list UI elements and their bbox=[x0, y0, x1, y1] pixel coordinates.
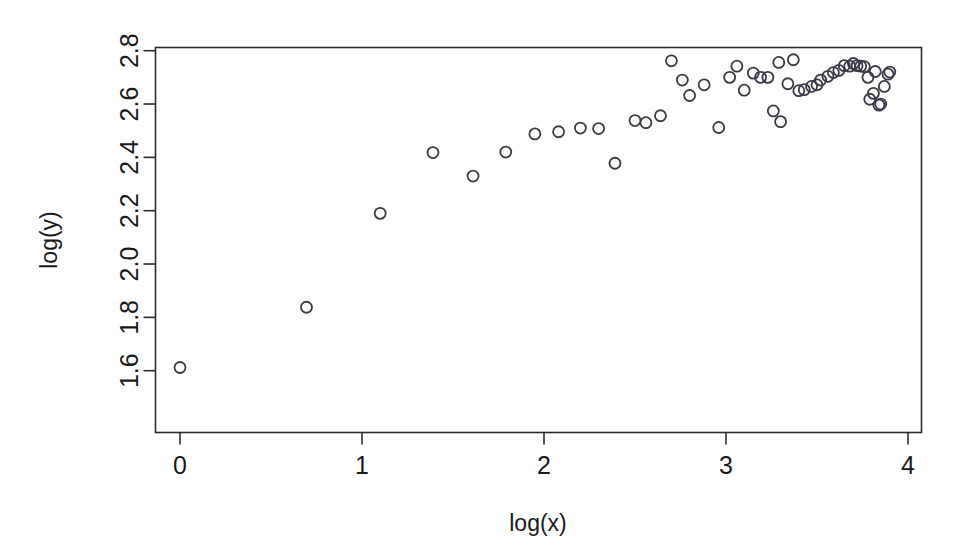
scatter-plot-figure: 01234 1.61.82.02.22.42.62.8 log(x) log(y… bbox=[0, 0, 963, 560]
y-tick-label-6: 2.8 bbox=[115, 33, 143, 68]
y-tick-label-1: 1.8 bbox=[115, 300, 143, 335]
y-tick-label-3: 2.2 bbox=[115, 193, 143, 228]
x-tick-label-3: 3 bbox=[719, 451, 733, 479]
x-tick-label-4: 4 bbox=[901, 451, 915, 479]
y-tick-label-5: 2.6 bbox=[115, 87, 143, 122]
x-axis-title: log(x) bbox=[509, 510, 567, 536]
y-tick-label-2: 2.0 bbox=[115, 247, 143, 282]
x-tick-label-2: 2 bbox=[537, 451, 551, 479]
x-tick-label-1: 1 bbox=[355, 451, 369, 479]
plot-canvas: 01234 1.61.82.02.22.42.62.8 log(x) log(y… bbox=[0, 0, 963, 560]
y-tick-label-0: 1.6 bbox=[115, 353, 143, 388]
y-axis-title: log(y) bbox=[36, 211, 62, 269]
y-tick-label-4: 2.4 bbox=[115, 140, 143, 175]
x-tick-label-0: 0 bbox=[173, 451, 187, 479]
figure-background bbox=[0, 0, 963, 560]
